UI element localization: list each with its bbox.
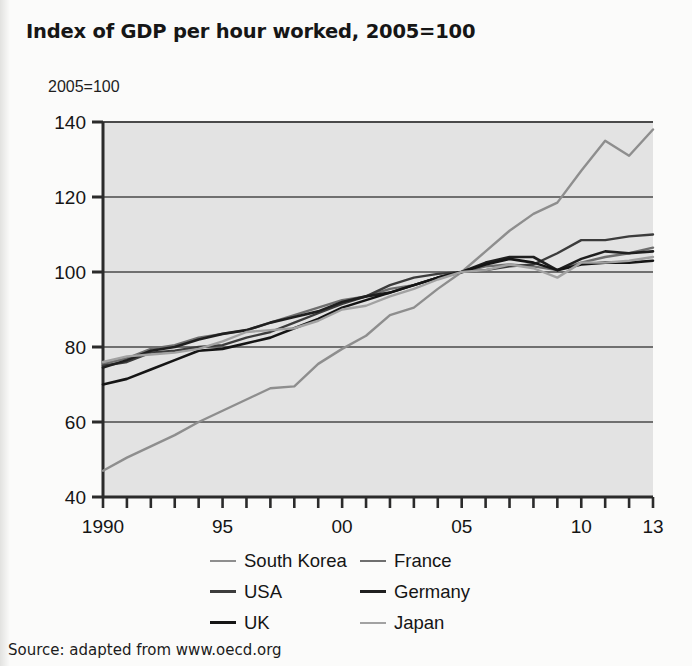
x-tick-label-2010: 10 — [571, 516, 592, 537]
legend-label: UK — [244, 612, 270, 634]
y-tick-label-140: 140 — [54, 112, 86, 133]
legend-item-france[interactable]: France — [360, 550, 510, 572]
x-tick-label-1995: 95 — [212, 516, 233, 537]
legend-swatch-icon — [210, 560, 236, 562]
y-tick-label-100: 100 — [54, 262, 86, 283]
legend-item-uk[interactable]: UK — [210, 612, 360, 634]
plot-background — [103, 122, 653, 497]
x-tick-label-2005: 05 — [451, 516, 472, 537]
x-tick-label-2000: 00 — [332, 516, 353, 537]
legend-label: South Korea — [244, 550, 347, 572]
legend-label: France — [394, 550, 452, 572]
legend-swatch-icon — [210, 621, 236, 624]
y-tick-label-40: 40 — [65, 487, 86, 508]
legend-swatch-icon — [210, 590, 236, 593]
legend-item-usa[interactable]: USA — [210, 581, 360, 603]
legend-item-japan[interactable]: Japan — [360, 612, 510, 634]
x-tick-label-1990: 1990 — [82, 516, 124, 537]
legend-swatch-icon — [360, 560, 386, 562]
x-tick-label-2013: 13 — [642, 516, 663, 537]
y-tick-label-80: 80 — [65, 337, 86, 358]
legend-swatch-icon — [360, 622, 386, 624]
legend-swatch-icon — [360, 590, 386, 593]
legend-item-germany[interactable]: Germany — [360, 581, 510, 603]
chart-figure: Index of GDP per hour worked, 2005=100 2… — [0, 0, 692, 666]
y-tick-label-120: 120 — [54, 187, 86, 208]
line-chart-plot: 40608010012014019909500051013 — [0, 0, 692, 545]
legend-label: USA — [244, 581, 282, 603]
y-tick-label-60: 60 — [65, 412, 86, 433]
legend-label: Germany — [394, 581, 470, 603]
legend-label: Japan — [394, 612, 444, 634]
legend-item-south-korea[interactable]: South Korea — [210, 550, 360, 572]
chart-legend: South KoreaFranceUSAGermanyUKJapan — [210, 545, 510, 638]
source-caption: Source: adapted from www.oecd.org — [8, 641, 282, 659]
